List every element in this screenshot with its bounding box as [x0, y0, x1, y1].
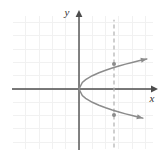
graph-figure: y x [0, 0, 166, 161]
lower-intersection-point [112, 113, 116, 117]
upper-intersection-point [112, 62, 116, 66]
figure-background [0, 0, 166, 161]
coordinate-plane-svg: y x [0, 0, 166, 161]
y-axis-label: y [64, 6, 70, 18]
x-axis-label: x [149, 92, 155, 104]
